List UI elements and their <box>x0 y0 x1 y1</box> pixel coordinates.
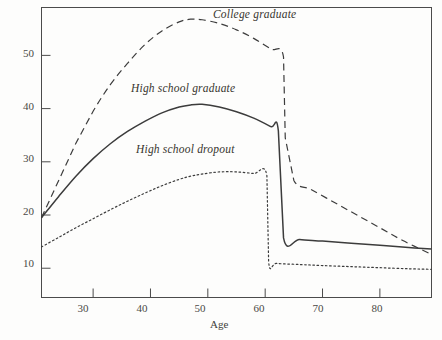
series-line-college-graduate <box>42 19 432 254</box>
series-label-college-graduate: College graduate <box>213 8 296 20</box>
y-tick-label-40: 40 <box>8 100 34 112</box>
series-lines <box>42 19 432 269</box>
x-tick-label-30: 30 <box>68 302 98 314</box>
y-tick-label-50: 50 <box>8 47 34 59</box>
y-axis-ticks <box>42 55 51 268</box>
y-tick-label-10: 10 <box>8 257 34 269</box>
y-tick-label-30: 30 <box>8 152 34 164</box>
series-line-high-school-dropout <box>42 169 432 270</box>
series-line-high-school-graduate <box>42 104 432 249</box>
x-tick-label-60: 60 <box>244 302 274 314</box>
x-tick-label-80: 80 <box>362 302 392 314</box>
x-tick-label-70: 70 <box>303 302 333 314</box>
y-tick-label-20: 20 <box>8 205 34 217</box>
chart-plot-area <box>0 0 442 340</box>
chart-figure: 50 40 30 20 10 30 40 50 60 70 80 Age Col… <box>0 0 442 340</box>
series-label-high-school-graduate: High school graduate <box>131 82 235 94</box>
x-tick-label-50: 50 <box>185 302 215 314</box>
x-tick-label-40: 40 <box>127 302 157 314</box>
series-label-high-school-dropout: High school dropout <box>136 143 235 155</box>
x-axis-ticks <box>93 289 380 298</box>
x-axis-title: Age <box>210 318 228 330</box>
